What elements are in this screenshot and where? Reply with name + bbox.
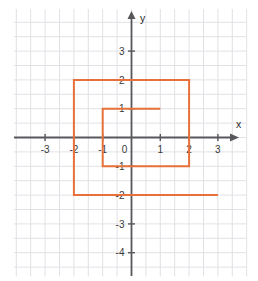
x-tick-label: 3 [215, 144, 221, 155]
origin-label: 0 [122, 144, 128, 155]
axis-name-labels: xy [140, 12, 242, 130]
x-tick-label: -3 [41, 144, 50, 155]
y-tick-label: -4 [116, 247, 125, 258]
x-axis-label: x [236, 118, 242, 130]
y-tick-label: -3 [116, 219, 125, 230]
y-tick-label: 3 [119, 46, 125, 57]
x-axis-arrowhead [230, 134, 239, 142]
graph-canvas: -3-2-1123321-1-2-3-40 xy [0, 0, 258, 281]
y-axis-arrowhead [128, 11, 136, 19]
coordinate-plane-figure: -3-2-1123321-1-2-3-40 xy [0, 0, 258, 281]
x-tick-label: 1 [158, 144, 164, 155]
y-axis-label: y [140, 12, 146, 24]
